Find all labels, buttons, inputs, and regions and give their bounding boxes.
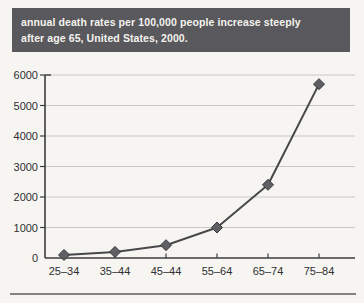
data-point-marker — [314, 79, 325, 90]
y-tick-label: 6000 — [14, 69, 38, 81]
x-tick-label: 75–84 — [304, 265, 335, 277]
death-rate-line-chart: 010002000300040005000600025–3435–4445–44… — [0, 0, 364, 290]
x-tick-label: 65–74 — [253, 265, 284, 277]
figure-canvas: annual death rates per 100,000 people in… — [0, 0, 364, 303]
x-tick-label: 25–34 — [49, 265, 80, 277]
data-point-marker — [59, 249, 70, 260]
x-tick-label: 35–44 — [100, 265, 131, 277]
x-tick-label: 55–64 — [202, 265, 233, 277]
y-tick-label: 0 — [32, 252, 38, 264]
y-tick-label: 2000 — [14, 191, 38, 203]
y-tick-label: 3000 — [14, 161, 38, 173]
series-line — [64, 84, 319, 255]
data-point-marker — [110, 246, 121, 257]
x-tick-label: 45–44 — [151, 265, 182, 277]
data-point-marker — [161, 240, 172, 251]
y-tick-label: 5000 — [14, 100, 38, 112]
y-tick-label: 4000 — [14, 130, 38, 142]
bottom-rule — [10, 293, 356, 295]
y-tick-label: 1000 — [14, 222, 38, 234]
